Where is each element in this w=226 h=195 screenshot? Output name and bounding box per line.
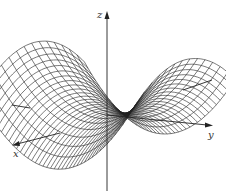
x-axis-label: x: [13, 148, 19, 159]
y-axis-label: y: [207, 129, 214, 140]
y-axis-arrowhead: [205, 123, 213, 128]
mesh-line-constant-y: [0, 41, 84, 97]
surface-mesh: [0, 41, 226, 169]
y-axis-back-segment: [183, 80, 212, 90]
mesh-line-constant-x: [54, 42, 205, 114]
mesh-line-constant-x: [17, 51, 168, 123]
z-axis-arrowhead: [105, 11, 110, 19]
saddle-surface-figure: z x y: [0, 0, 226, 195]
mesh-line-constant-x: [47, 41, 198, 113]
z-axis-label: z: [96, 9, 103, 20]
mesh-line-constant-y: [115, 80, 221, 136]
x-axis-arrowhead: [12, 141, 20, 146]
mesh-line-constant-y: [0, 60, 96, 116]
mesh-line-constant-y: [5, 81, 111, 137]
